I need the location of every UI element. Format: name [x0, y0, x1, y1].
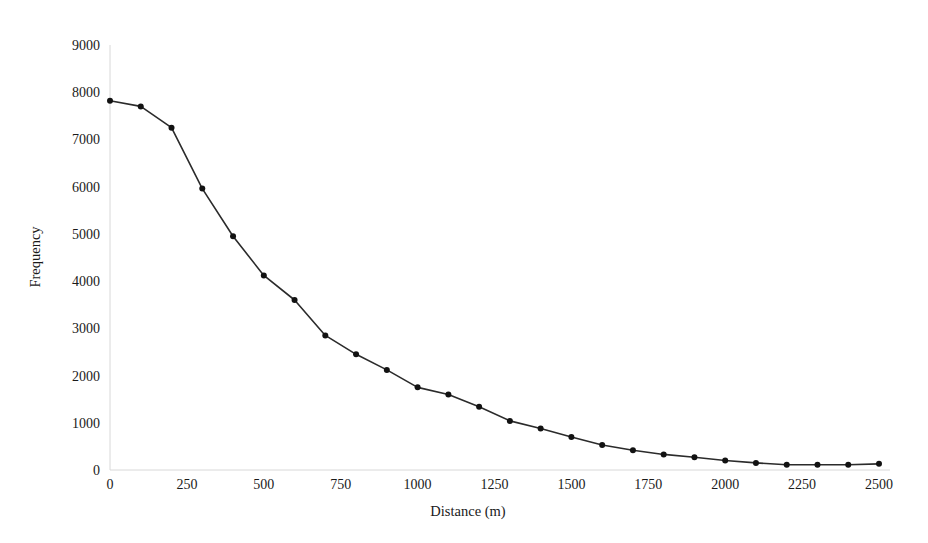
x-tick-label: 1000	[404, 477, 432, 492]
y-tick-label: 9000	[72, 38, 100, 53]
data-point-marker	[415, 384, 421, 390]
x-tick-label: 500	[253, 477, 274, 492]
data-point-marker	[722, 458, 728, 464]
y-tick-label: 8000	[72, 85, 100, 100]
data-point-marker	[753, 460, 759, 466]
data-point-marker	[538, 425, 544, 431]
data-point-marker	[322, 332, 328, 338]
x-tick-label: 2250	[788, 477, 816, 492]
data-point-marker	[599, 442, 605, 448]
x-axis-tick-labels: 02505007501000125015001750200022502500	[107, 477, 894, 492]
data-point-marker	[630, 447, 636, 453]
y-tick-label: 2000	[72, 369, 100, 384]
series-line-frequency	[110, 101, 879, 465]
x-tick-label: 750	[330, 477, 351, 492]
data-point-marker	[661, 451, 667, 457]
y-tick-label: 3000	[72, 321, 100, 336]
y-axis-tick-labels: 0100020003000400050006000700080009000	[72, 38, 100, 478]
x-tick-label: 250	[176, 477, 197, 492]
data-point-marker	[169, 125, 175, 131]
data-point-marker	[845, 462, 851, 468]
y-tick-label: 6000	[72, 180, 100, 195]
series-markers-frequency	[107, 98, 882, 468]
data-point-marker	[691, 454, 697, 460]
data-point-marker	[230, 233, 236, 239]
y-tick-label: 4000	[72, 274, 100, 289]
data-point-marker	[292, 297, 298, 303]
data-point-marker	[107, 98, 113, 104]
y-axis-title: Frequency	[27, 226, 43, 288]
y-tick-label: 1000	[72, 416, 100, 431]
x-tick-label: 1250	[481, 477, 509, 492]
data-point-marker	[384, 367, 390, 373]
data-point-marker	[784, 462, 790, 468]
x-tick-label: 2500	[865, 477, 893, 492]
y-tick-label: 5000	[72, 227, 100, 242]
data-point-marker	[445, 391, 451, 397]
line-chart-canvas: 0100020003000400050006000700080009000 02…	[0, 0, 928, 543]
data-point-marker	[138, 103, 144, 109]
data-point-marker	[476, 404, 482, 410]
y-tick-label: 7000	[72, 132, 100, 147]
data-point-marker	[507, 418, 513, 424]
x-tick-label: 1500	[557, 477, 585, 492]
x-tick-label: 0	[107, 477, 114, 492]
x-tick-label: 1750	[634, 477, 662, 492]
data-point-marker	[353, 351, 359, 357]
data-point-marker	[876, 461, 882, 467]
data-point-marker	[814, 462, 820, 468]
chart-figure: 0100020003000400050006000700080009000 02…	[0, 0, 928, 543]
data-point-marker	[199, 186, 205, 192]
data-point-marker	[568, 434, 574, 440]
data-point-marker	[261, 272, 267, 278]
y-tick-label: 0	[93, 463, 100, 478]
x-tick-label: 2000	[711, 477, 739, 492]
x-axis-title: Distance (m)	[430, 503, 505, 520]
